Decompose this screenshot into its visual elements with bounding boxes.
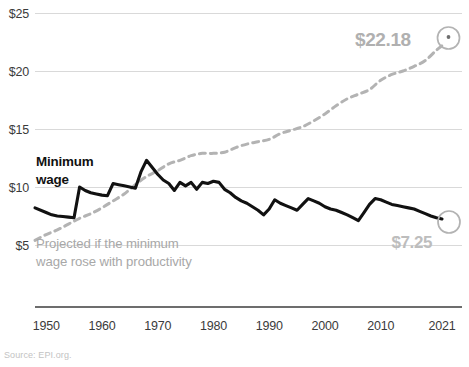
minimum-wage-label-line2: wage [35, 172, 69, 187]
y-axis-tick-labels: $5$10$15$20$25 [9, 7, 30, 253]
x-tick-label: 1950 [33, 319, 60, 333]
x-tick-label: 2021 [428, 319, 455, 333]
actual-end-marker [438, 211, 460, 233]
projected-label-line2: wage rose with productivity [35, 254, 192, 269]
y-tick-label: $10 [9, 181, 30, 195]
minimum-wage-label-line1: Minimum [36, 154, 94, 169]
y-tick-label: $15 [9, 123, 30, 137]
x-tick-label: 2000 [311, 319, 338, 333]
minimum-wage-chart: $5$10$15$20$25 1950196019701980199020002… [0, 0, 469, 367]
x-tick-label: 1970 [144, 319, 171, 333]
y-tick-label: $20 [9, 65, 30, 79]
y-tick-label: $25 [9, 7, 30, 21]
chart-canvas: $5$10$15$20$25 1950196019701980199020002… [0, 0, 469, 367]
actual-end-value-label: $7.25 [391, 233, 432, 252]
x-tick-label: 1980 [200, 319, 227, 333]
x-tick-label: 2010 [367, 319, 394, 333]
projected-label-line1: Projected if the minimum [36, 236, 179, 251]
y-tick-label: $5 [15, 239, 29, 253]
x-tick-label: 1990 [256, 319, 283, 333]
projected-end-value-label: $22.18 [355, 29, 411, 50]
source-note: Source: EPI.org. [4, 350, 72, 360]
x-tick-label: 1960 [88, 319, 115, 333]
series-line-projected [35, 46, 442, 241]
x-axis-tick-labels: 19501960197019801990200020102021 [33, 319, 456, 333]
projected-end-marker [438, 27, 460, 49]
